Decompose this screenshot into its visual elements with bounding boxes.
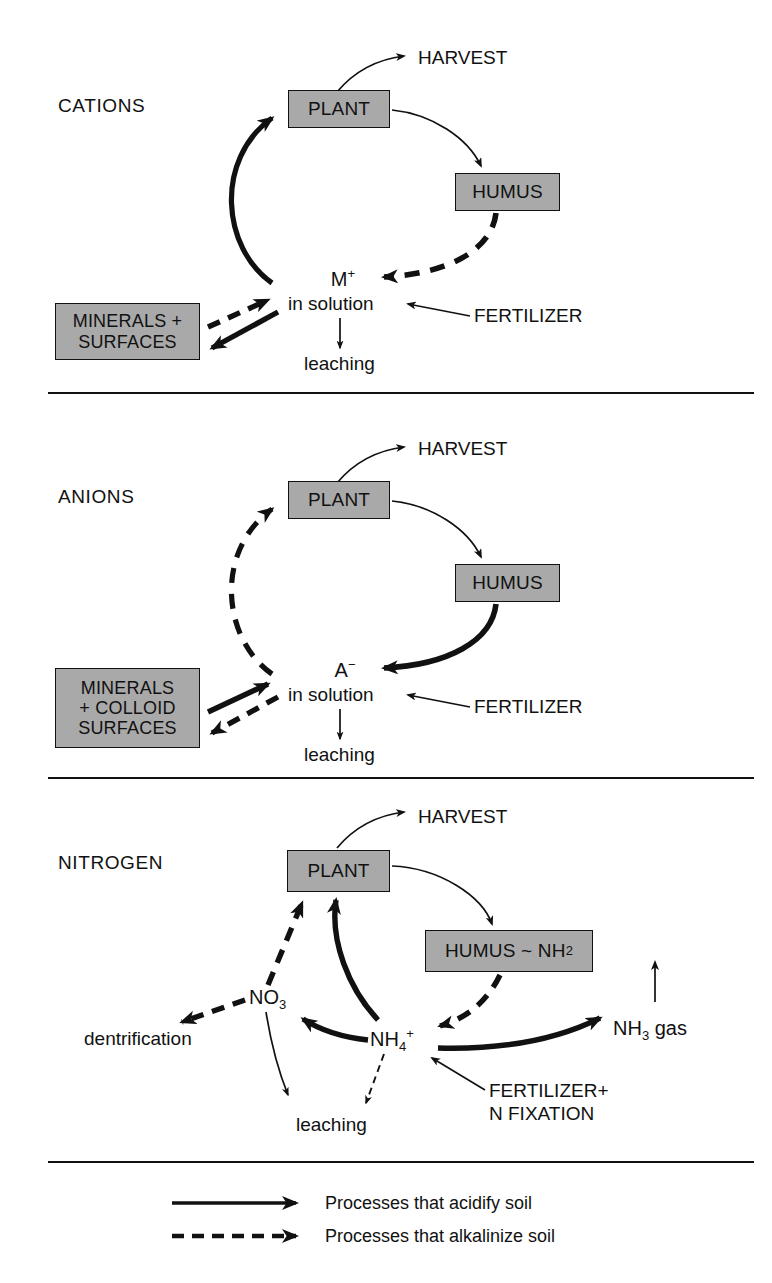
arrow-ammonium-to-leaching-nitrogen — [366, 1054, 384, 1103]
label-leaching-cations: leaching — [304, 353, 375, 376]
arrow-minerals-to-solution-anions — [208, 684, 268, 712]
ion-symbol-cations: M — [331, 268, 348, 290]
arrow-ion-to-plant-anions — [231, 509, 272, 674]
label-in-solution-anions: in solution — [288, 684, 374, 707]
arrow-plant-to-humus-anions — [392, 501, 481, 557]
label-leaching-anions: leaching — [304, 744, 375, 767]
arrow-plant-to-harvest-cations — [337, 56, 404, 92]
arrow-solution-to-minerals-cations — [212, 312, 278, 348]
figure-canvas: CATIONS PLANT HUMUS HARVEST MINERALS + S… — [0, 0, 772, 1283]
node-humus-cations[interactable]: HUMUS — [455, 173, 560, 211]
legend-label-alkalinize: Processes that alkalinize soil — [325, 1226, 555, 1247]
arrow-humus-to-ion-cations — [384, 213, 496, 277]
arrow-plant-to-harvest-nitrogen — [337, 812, 404, 848]
node-plant-nitrogen[interactable]: PLANT — [287, 850, 390, 892]
node-plant-cations[interactable]: PLANT — [288, 90, 390, 128]
arrow-humus-to-ion-anions — [384, 604, 496, 668]
ammonia-gas-word: gas — [649, 1017, 687, 1039]
label-harvest-anions: HARVEST — [418, 438, 507, 461]
label-ion-cations: M+ — [318, 266, 368, 291]
node-minerals-cations[interactable]: MINERALS + SURFACES — [55, 303, 200, 360]
label-fertilizer-cations: FERTILIZER — [474, 305, 582, 328]
arrow-humus-to-ammonium-nitrogen — [440, 975, 500, 1026]
arrow-nitrate-to-plant-nitrogen — [268, 903, 302, 985]
arrow-fertilizer-to-ammonium-nitrogen — [432, 1058, 485, 1090]
node-humus-nitrogen-subscript: 2 — [566, 944, 573, 959]
arrow-ammonium-to-nitrate-nitrogen — [303, 1019, 368, 1040]
nitrate-subscript: 3 — [279, 997, 286, 1012]
ion-symbol-anions: A — [335, 659, 348, 681]
arrow-plant-to-harvest-anions — [337, 447, 404, 483]
label-ammonia-gas-nitrogen: NH3 gas — [613, 1017, 687, 1043]
ammonium-charge: + — [406, 1026, 414, 1041]
label-fertilizer-anions: FERTILIZER — [474, 696, 582, 719]
arrow-solution-to-minerals-anions — [212, 697, 278, 733]
label-fertilizer-nitrogen: FERTILIZER+ N FIXATION — [489, 1080, 608, 1126]
arrow-plant-to-humus-nitrogen — [392, 866, 492, 924]
arrow-plant-to-humus-cations — [392, 110, 481, 166]
label-leaching-nitrogen: leaching — [296, 1114, 367, 1137]
node-minerals-anions[interactable]: MINERALS + COLLOID SURFACES — [55, 668, 200, 748]
ammonium-symbol: NH — [370, 1028, 399, 1050]
node-humus-nitrogen-label: HUMUS ~ NH — [445, 940, 566, 961]
arrow-ion-to-plant-cations — [231, 118, 272, 283]
label-in-solution-cations: in solution — [288, 293, 374, 316]
ion-charge-cations: + — [348, 266, 356, 281]
panel-title-nitrogen: NITROGEN — [58, 852, 163, 874]
label-ion-anions: A− — [320, 657, 370, 682]
label-dentrification-nitrogen: dentrification — [84, 1028, 192, 1051]
ammonia-symbol: NH — [613, 1017, 642, 1039]
node-plant-anions[interactable]: PLANT — [288, 481, 390, 519]
nitrate-symbol: NO — [249, 986, 279, 1008]
arrow-nitrate-to-dentrification-nitrogen — [182, 1000, 245, 1022]
node-humus-anions[interactable]: HUMUS — [455, 564, 560, 602]
arrow-layer — [0, 0, 772, 1283]
panel-title-anions: ANIONS — [58, 486, 134, 508]
ion-charge-anions: − — [348, 657, 356, 672]
label-harvest-nitrogen: HARVEST — [418, 806, 507, 829]
arrow-ammonium-to-ammonia-gas-nitrogen — [438, 1018, 600, 1048]
arrow-nitrate-to-leaching-nitrogen — [266, 1012, 288, 1095]
label-nitrate-nitrogen: NO3 — [249, 986, 286, 1012]
panel-title-cations: CATIONS — [58, 95, 145, 117]
node-humus-nitrogen[interactable]: HUMUS ~ NH2 — [425, 930, 593, 972]
arrow-fertilizer-to-solution-cations — [408, 304, 470, 316]
label-harvest-cations: HARVEST — [418, 47, 507, 70]
label-ammonium-nitrogen: NH4+ — [370, 1026, 414, 1054]
arrow-ammonium-to-plant-nitrogen — [335, 900, 378, 1020]
arrow-fertilizer-to-solution-anions — [408, 695, 470, 707]
legend-label-acidify: Processes that acidify soil — [325, 1193, 532, 1214]
